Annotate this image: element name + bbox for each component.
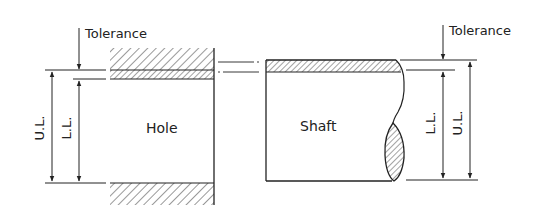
tolerance-diagram: Tolerance U.L. L.L. Hole Tolerance — [0, 0, 533, 215]
hole-figure: Tolerance U.L. L.L. Hole — [32, 26, 214, 205]
hole-label: Hole — [146, 120, 178, 136]
shaft-lower-limit-label: L.L. — [423, 112, 438, 135]
hole-bottom-wall — [110, 183, 214, 205]
shaft-figure: Tolerance L.L. U.L. Shaft — [266, 23, 511, 181]
shaft-label: Shaft — [300, 118, 337, 134]
center-break-lines — [218, 62, 262, 72]
hole-upper-limit-label: U.L. — [32, 115, 47, 140]
hole-lower-limit-label: L.L. — [59, 117, 74, 140]
hole-tolerance-label: Tolerance — [84, 26, 147, 41]
shaft-upper-limit-label: U.L. — [450, 110, 465, 135]
shaft-tolerance-zone — [266, 60, 402, 72]
shaft-section — [385, 123, 404, 181]
hole-top-wall — [110, 48, 214, 70]
shaft-tolerance-label: Tolerance — [448, 23, 511, 38]
hole-tolerance-zone — [110, 70, 214, 79]
